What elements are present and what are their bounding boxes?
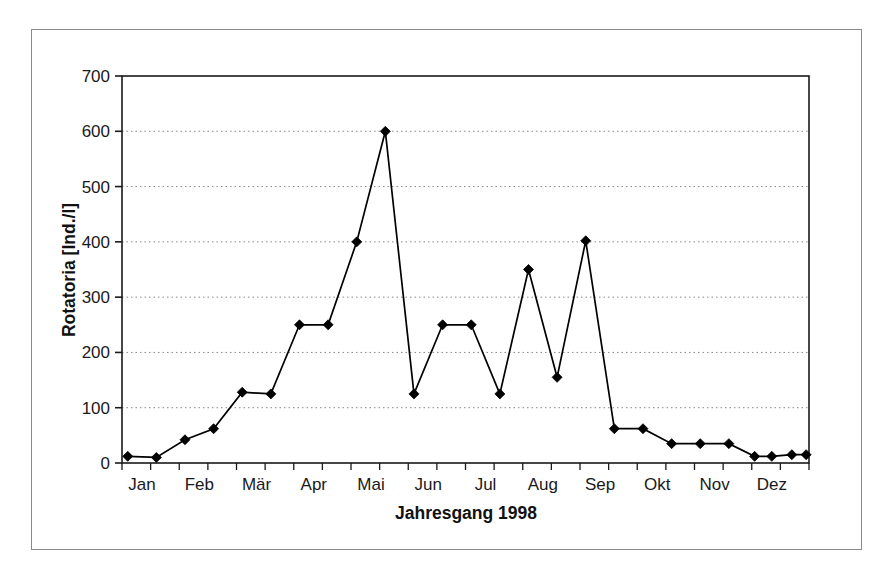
y-axis-tick-label: 400 [82, 233, 110, 252]
x-axis-title: Jahresgang 1998 [395, 503, 537, 523]
x-axis-tick-label: Mär [242, 475, 272, 494]
y-axis-tick-label: 200 [82, 343, 110, 362]
figure-root: 0100200300400500600700 JanFebMärAprMaiJu… [0, 0, 893, 578]
x-axis-tick-label: Jan [128, 475, 155, 494]
y-axis-tick-label: 0 [101, 454, 110, 473]
y-axis-tick-label: 600 [82, 122, 110, 141]
plot-background [122, 76, 809, 463]
x-axis-tick-label: Nov [699, 475, 730, 494]
y-axis-tick-label: 300 [82, 288, 110, 307]
x-axis-tick-label: Jul [475, 475, 497, 494]
x-axis-tick-label: Okt [644, 475, 671, 494]
x-axis-tick-label: Jun [415, 475, 442, 494]
line-chart: 0100200300400500600700 JanFebMärAprMaiJu… [0, 0, 893, 578]
x-axis-tick-label: Aug [528, 475, 558, 494]
y-axis-tick-label: 500 [82, 178, 110, 197]
y-axis-tick-label: 700 [82, 67, 110, 86]
x-axis-tick-label: Sep [585, 475, 615, 494]
x-axis-tick-label: Feb [185, 475, 214, 494]
y-axis: 0100200300400500600700 [82, 67, 122, 473]
y-axis-title: Rotatoria [Ind./l] [59, 203, 79, 337]
x-axis: JanFebMärAprMaiJunJulAugSepOktNovDez [122, 463, 809, 494]
x-axis-tick-label: Mai [357, 475, 384, 494]
y-axis-tick-label: 100 [82, 399, 110, 418]
x-axis-tick-label: Dez [757, 475, 787, 494]
x-axis-tick-label: Apr [301, 475, 328, 494]
